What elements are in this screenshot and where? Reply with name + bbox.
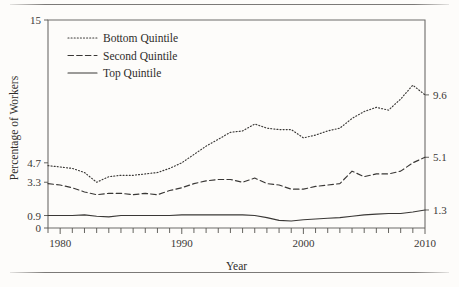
y-tick-label-left-0.9: 0.9 (27, 210, 41, 222)
series-line-bottom-quintile (48, 85, 425, 182)
series-line-top-quintile (48, 210, 425, 221)
y-tick-label-right-9.6: 9.6 (433, 89, 447, 101)
legend-label-bottom-quintile: Bottom Quintile (103, 32, 178, 44)
x-tick-label-1980: 1980 (49, 237, 72, 249)
x-tick-label-1990: 1990 (171, 237, 194, 249)
x-tick-label-2010: 2010 (414, 237, 437, 249)
y-tick-label-right-1.3: 1.3 (433, 204, 447, 216)
y-tick-label-left-3.3: 3.3 (27, 176, 41, 188)
y-tick-label-right-5.1: 5.1 (433, 151, 447, 163)
series-line-second-quintile (48, 157, 425, 194)
y-axis-title: Percentage of Workers (8, 75, 21, 180)
x-tick-label-2000: 2000 (292, 237, 315, 249)
y-tick-label-left-15: 15 (30, 14, 42, 26)
legend-label-top-quintile: Top Quintile (103, 67, 161, 80)
line-chart: 154.73.30.909.65.11.31980199020002010Yea… (0, 0, 459, 287)
x-axis-title: Year (226, 260, 247, 272)
figure-container: 154.73.30.909.65.11.31980199020002010Yea… (0, 0, 459, 287)
legend-label-second-quintile: Second Quintile (103, 50, 177, 62)
y-tick-label-left-0: 0 (36, 222, 42, 234)
y-tick-label-left-4.7: 4.7 (27, 157, 41, 169)
